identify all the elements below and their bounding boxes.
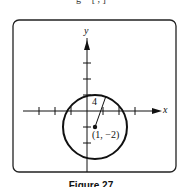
- x-axis-label: x: [163, 105, 167, 115]
- y-axis-label: y: [84, 26, 88, 36]
- center-label: (1, −2): [92, 130, 119, 140]
- circle-graph: [0, 0, 182, 187]
- figure-caption: Figure 27: [0, 180, 182, 187]
- y-axis-arrow-icon: [84, 40, 90, 50]
- x-axis-arrow-icon: [152, 108, 162, 114]
- radius-label: 4: [92, 97, 97, 107]
